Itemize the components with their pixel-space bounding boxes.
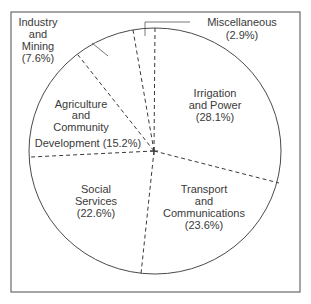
label-transport-line1: Transport	[181, 183, 228, 195]
industry-leader-line	[92, 43, 108, 56]
label-industry-value: (7.6%)	[22, 52, 54, 64]
label-irrigation: Irrigation and Power (28.1%)	[189, 87, 242, 123]
label-social: Social Services (22.6%)	[75, 183, 118, 219]
label-industry-line2: and	[29, 28, 47, 40]
label-agriculture: Agriculture and Community Development (1…	[35, 98, 141, 149]
label-misc: Miscellaneous (2.9%)	[207, 16, 277, 41]
pie-chart-figure: Irrigation and Power (28.1%) Transport a…	[0, 0, 311, 304]
boundary-industry-misc	[133, 30, 154, 151]
chart-frame	[11, 12, 300, 292]
label-misc-value: (2.9%)	[226, 29, 258, 41]
boundary-misc-irrigation	[154, 28, 155, 151]
pie-chart-svg: Irrigation and Power (28.1%) Transport a…	[0, 0, 311, 304]
label-industry-line3: Mining	[22, 40, 54, 52]
label-transport-line2: and	[195, 195, 213, 207]
boundary-social-agriculture	[31, 151, 154, 157]
label-transport-line3: Communications	[163, 207, 245, 219]
boundary-irrigation-transport	[154, 151, 279, 183]
label-irrigation-line1: Irrigation	[194, 87, 237, 99]
label-social-line2: Services	[75, 195, 118, 207]
label-agriculture-line3: Community	[53, 121, 109, 133]
label-transport: Transport and Communications (23.6%)	[163, 183, 245, 231]
label-industry-line1: Industry	[18, 16, 58, 28]
label-social-value: (22.6%)	[77, 207, 116, 219]
label-agriculture-value: Development (15.2%)	[35, 137, 141, 149]
label-irrigation-line2: and Power	[189, 99, 242, 111]
label-agriculture-line2: and	[72, 109, 90, 121]
boundary-transport-social	[141, 151, 154, 274]
label-social-line1: Social	[81, 183, 111, 195]
label-irrigation-value: (28.1%)	[196, 111, 235, 123]
label-transport-value: (23.6%)	[185, 219, 224, 231]
label-industry: Industry and Mining (7.6%)	[18, 16, 58, 64]
label-misc-line1: Miscellaneous	[207, 16, 277, 28]
